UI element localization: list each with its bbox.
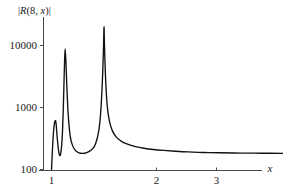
chart-svg: |R(8, x)| 10000 1000 100 1 2 3	[0, 0, 283, 191]
x-tick-label-3: 3	[214, 174, 220, 186]
y-axis-ticks	[40, 46, 44, 170]
data-series-curve	[52, 27, 284, 170]
x-tick-label-2: 2	[154, 174, 160, 186]
y-tick-label-100: 100	[21, 163, 38, 175]
x-tick-label-1: 1	[49, 174, 55, 186]
y-tick-label-1000: 1000	[15, 101, 38, 113]
title-bar-right: |	[49, 5, 51, 16]
y-tick-label-10000: 10000	[10, 39, 38, 51]
y-axis-tick-labels: 10000 1000 100	[10, 39, 38, 175]
svg-text:|R(8, x)|: |R(8, x)|	[18, 5, 51, 17]
x-axis-tick-labels: 1 2 3	[49, 174, 220, 186]
x-axis-label: x	[267, 162, 273, 174]
chart-axis-title: |R(8, x)|	[18, 5, 51, 17]
chart-container: |R(8, x)| 10000 1000 100 1 2 3	[0, 0, 283, 191]
